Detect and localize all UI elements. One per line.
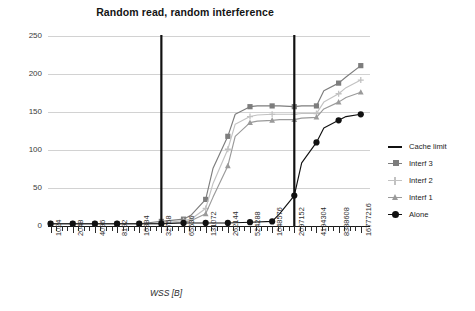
- x-axis-title: WSS [B]: [150, 288, 182, 298]
- series-interf-2: [48, 77, 364, 227]
- legend-item-interf-1[interactable]: Interf 1: [386, 189, 475, 206]
- x-tick-major-262144: [228, 226, 229, 233]
- x-tick-minor: [67, 226, 68, 231]
- x-tick-major-65536: [184, 226, 185, 233]
- y-tick-100: 100: [0, 145, 42, 154]
- x-tick-major-16384: [139, 226, 140, 233]
- series-interf-1: [48, 89, 364, 226]
- data-point: [313, 139, 319, 145]
- x-tick-minor: [244, 226, 245, 231]
- x-tick-label-524288: 524288: [253, 211, 262, 236]
- circle-marker-icon: [386, 209, 404, 221]
- x-tick-minor: [112, 226, 113, 231]
- x-tick-minor: [134, 226, 135, 231]
- x-tick-label-262144: 262144: [231, 211, 240, 236]
- x-tick-label-65536: 65536: [187, 215, 196, 236]
- chart-title: Random read, random interference: [0, 6, 370, 18]
- x-tick-major-1048576: [272, 226, 273, 233]
- x-tick-label-1024: 1024: [54, 220, 63, 236]
- x-tick-minor: [333, 226, 334, 231]
- line-marker-icon: [386, 141, 404, 153]
- legend-label: Interf 2: [409, 176, 433, 185]
- x-tick-major-8192: [117, 226, 118, 233]
- x-tick-minor: [178, 226, 179, 231]
- x-tick-minor: [89, 226, 90, 231]
- y-tick-150: 150: [0, 107, 42, 116]
- legend-label: Interf 3: [409, 159, 433, 168]
- plus-marker-icon: [386, 175, 404, 187]
- data-point: [336, 81, 341, 86]
- legend-item-interf-3[interactable]: Interf 3: [386, 155, 475, 172]
- x-tick-major-16777216: [361, 226, 362, 233]
- data-point: [358, 89, 364, 94]
- data-point: [203, 211, 209, 216]
- x-tick-label-4096: 4096: [98, 220, 107, 236]
- data-point: [358, 63, 363, 68]
- triangle-marker-icon: [386, 192, 404, 204]
- data-point: [269, 111, 275, 117]
- legend-item-alone[interactable]: Alone: [386, 206, 475, 223]
- legend-label: Interf 1: [409, 193, 433, 202]
- data-point: [336, 99, 342, 104]
- x-tick-minor: [222, 226, 223, 231]
- x-tick-minor: [156, 226, 157, 231]
- chart-legend: Cache limitInterf 3Interf 2Interf 1Alone: [386, 138, 475, 223]
- series-plot: [48, 36, 370, 226]
- y-tick-0: 0: [0, 221, 42, 230]
- x-tick-label-8388608: 8388608: [342, 207, 351, 236]
- data-point: [225, 134, 230, 139]
- x-tick-label-4194304: 4194304: [319, 207, 328, 236]
- x-tick-major-4194304: [316, 226, 317, 233]
- data-point: [336, 117, 342, 123]
- x-tick-label-16384: 16384: [142, 215, 151, 236]
- y-tick-200: 200: [0, 69, 42, 78]
- square-marker-icon: [386, 158, 404, 170]
- x-tick-minor: [355, 226, 356, 231]
- data-point: [358, 77, 364, 83]
- x-tick-major-8388608: [339, 226, 340, 233]
- y-tick-250: 250: [0, 31, 42, 40]
- data-point: [225, 146, 231, 152]
- x-tick-minor: [200, 226, 201, 231]
- legend-item-cache-limit[interactable]: Cache limit: [386, 138, 475, 155]
- x-tick-major-131072: [206, 226, 207, 233]
- x-tick-label-16777216: 16777216: [364, 203, 373, 236]
- x-tick-label-2048: 2048: [76, 220, 85, 236]
- x-tick-major-524288: [250, 226, 251, 233]
- legend-label: Cache limit: [409, 142, 447, 151]
- x-tick-label-1048576: 1048576: [275, 207, 284, 236]
- data-point: [247, 114, 253, 120]
- x-tick-minor: [289, 226, 290, 231]
- data-point: [247, 104, 252, 109]
- plot-area: [48, 36, 370, 226]
- data-point: [225, 163, 231, 168]
- data-point: [270, 103, 275, 108]
- series-line: [51, 80, 361, 224]
- x-tick-minor: [267, 226, 268, 231]
- x-tick-label-32768: 32768: [164, 215, 173, 236]
- x-tick-label-8192: 8192: [120, 220, 129, 236]
- legend-item-interf-2[interactable]: Interf 2: [386, 172, 475, 189]
- x-tick-major-2048: [73, 226, 74, 233]
- series-line: [51, 92, 361, 223]
- data-point: [358, 111, 364, 117]
- y-tick-50: 50: [0, 183, 42, 192]
- data-point: [314, 103, 319, 108]
- legend-label: Alone: [409, 210, 428, 219]
- x-tick-label-2097152: 2097152: [297, 207, 306, 236]
- x-tick-minor: [311, 226, 312, 231]
- chart-container: Random read, random interference Latency…: [0, 0, 475, 311]
- x-tick-label-131072: 131072: [209, 211, 218, 236]
- x-tick-major-32768: [161, 226, 162, 233]
- x-tick-major-4096: [95, 226, 96, 233]
- x-tick-major-1024: [51, 226, 52, 233]
- x-tick-major-2097152: [294, 226, 295, 233]
